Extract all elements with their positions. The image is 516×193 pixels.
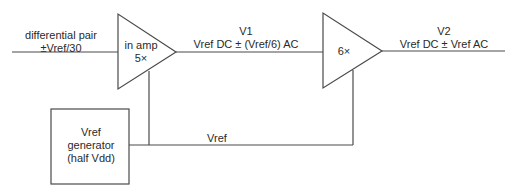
- v2-name: V2: [400, 25, 488, 38]
- generator-line1: Vref: [67, 126, 115, 139]
- in-amp-label: in amp 5×: [124, 39, 157, 65]
- generator-line3: (half Vdd): [67, 152, 115, 165]
- v2-label: V2 Vref DC ± Vref AC: [400, 25, 488, 51]
- v1-label: V1 Vref DC ± (Vref/6) AC: [194, 25, 299, 51]
- in-amp-gain: 5×: [124, 52, 157, 65]
- vref-bus-label: Vref: [207, 132, 227, 145]
- input-label-line2: ±Vref/30: [25, 42, 97, 55]
- input-label-line1: differential pair: [25, 29, 97, 42]
- vref-generator-label: Vref generator (half Vdd): [67, 126, 115, 165]
- generator-line2: generator: [67, 139, 115, 152]
- gain-amp-label: 6×: [338, 45, 351, 58]
- v2-value: Vref DC ± Vref AC: [400, 38, 488, 51]
- v1-value: Vref DC ± (Vref/6) AC: [194, 38, 299, 51]
- in-amp-name: in amp: [124, 39, 157, 52]
- input-label: differential pair ±Vref/30: [25, 29, 97, 55]
- v1-name: V1: [194, 25, 299, 38]
